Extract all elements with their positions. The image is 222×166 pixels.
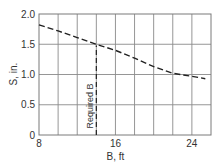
x-axis-label: B, ft [107,151,125,162]
y-tick-label: 2.0 [21,9,35,20]
x-tick-label: 16 [110,138,122,149]
settlement-chart: 00.51.01.52.0 81624 Required B B, ft S, … [0,0,222,166]
x-tick-label: 24 [186,138,198,149]
y-tick-label: 1.0 [21,69,35,80]
x-tick-label: 8 [36,138,42,149]
settlement-curve [39,25,205,79]
y-axis-label: S, in. [8,63,19,86]
required-b-label: Required B [85,83,95,128]
x-tick-labels: 81624 [36,138,198,149]
y-tick-labels: 00.51.01.52.0 [21,9,35,141]
y-tick-label: 1.5 [21,39,35,50]
y-tick-label: 0 [29,130,35,141]
y-tick-label: 0.5 [21,99,35,110]
grid-lines [39,14,211,135]
